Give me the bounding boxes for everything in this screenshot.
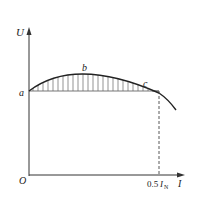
origin-label: O <box>19 175 26 186</box>
hatched-region <box>33 70 148 91</box>
y-axis-arrow-icon <box>27 27 32 35</box>
point-a-label: a <box>19 87 24 98</box>
svg-text:N: N <box>164 184 169 190</box>
svg-text:0.5: 0.5 <box>147 179 159 189</box>
u-i-curve <box>29 74 176 110</box>
point-c-label: c <box>143 78 148 89</box>
point-b-label: b <box>82 62 87 73</box>
x-axis-arrow-icon <box>177 173 185 178</box>
y-axis-label: U <box>16 26 25 38</box>
axes <box>27 27 186 178</box>
u-i-characteristic-diagram: U O I a b c 0.5 I N <box>0 0 204 198</box>
x-axis-label: I <box>177 178 182 189</box>
x-tick-0-5-in: 0.5 I N <box>147 179 169 190</box>
